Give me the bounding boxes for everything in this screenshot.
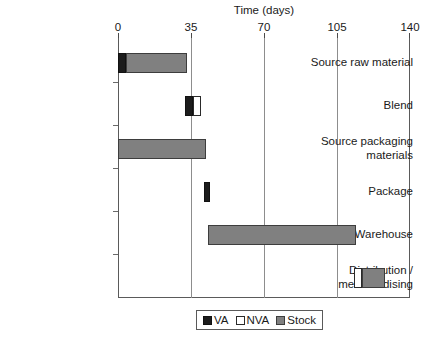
category-label-source-raw-material: Source raw material bbox=[305, 56, 419, 70]
bar-segment bbox=[208, 225, 356, 245]
legend-item-nva: NVA bbox=[236, 314, 270, 326]
legend-swatch-nva-icon bbox=[236, 316, 245, 325]
bar-segment bbox=[204, 182, 210, 202]
legend-label-va: VA bbox=[214, 314, 229, 326]
bar-segment bbox=[126, 53, 186, 73]
y-tick-mark-3 bbox=[113, 168, 118, 169]
chart-title: Time (days) bbox=[118, 3, 410, 17]
legend-swatch-va-icon bbox=[203, 316, 212, 325]
x-tick-label-140: 140 bbox=[390, 21, 424, 34]
gridline-105 bbox=[337, 38, 338, 298]
bar-segment bbox=[185, 96, 193, 116]
plot-area bbox=[118, 38, 410, 298]
category-label-package: Package bbox=[305, 185, 419, 199]
bar-segment bbox=[118, 53, 126, 73]
legend-label-stock: Stock bbox=[287, 314, 316, 326]
legend-label-nva: NVA bbox=[247, 314, 270, 326]
legend-item-va: VA bbox=[203, 314, 229, 326]
gridline-70 bbox=[264, 38, 265, 298]
bar-segment bbox=[193, 96, 201, 116]
bar-segment bbox=[118, 139, 206, 159]
bar-segment bbox=[354, 268, 362, 288]
category-label-source-packaging-materials: Source packaging materials bbox=[305, 135, 419, 162]
gridline-35 bbox=[191, 38, 192, 298]
y-tick-mark-4 bbox=[113, 211, 118, 212]
y-tick-mark-2 bbox=[113, 125, 118, 126]
legend-swatch-stock-icon bbox=[276, 316, 285, 325]
category-label-blend: Blend bbox=[305, 99, 419, 113]
chart-legend: VA NVA Stock bbox=[196, 310, 323, 330]
y-tick-mark-1 bbox=[113, 82, 118, 83]
bar-segment bbox=[362, 268, 385, 288]
legend-item-stock: Stock bbox=[276, 314, 316, 326]
y-tick-mark-5 bbox=[113, 254, 118, 255]
